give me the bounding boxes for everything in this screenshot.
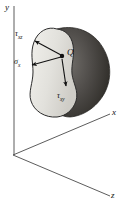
tau-xz-subscript: xz xyxy=(18,34,23,40)
stress-element-figure: y x z Q τxz σx τxy xyxy=(0,0,128,208)
axis-label-y: y xyxy=(5,3,9,12)
z-axis-line xyxy=(13,155,110,196)
axis-label-x: x xyxy=(112,108,116,117)
sigma-x-subscript: x xyxy=(18,62,20,68)
point-q-dot xyxy=(60,54,64,58)
axis-label-z: z xyxy=(111,191,115,200)
stress-label-tau-xy: τxy xyxy=(57,92,65,102)
tau-xy-subscript: xy xyxy=(60,96,65,102)
point-label-q: Q xyxy=(67,48,74,57)
stress-label-sigma-x: σx xyxy=(14,58,20,68)
x-axis-line xyxy=(13,114,110,155)
stress-label-tau-xz: τxz xyxy=(15,30,22,40)
